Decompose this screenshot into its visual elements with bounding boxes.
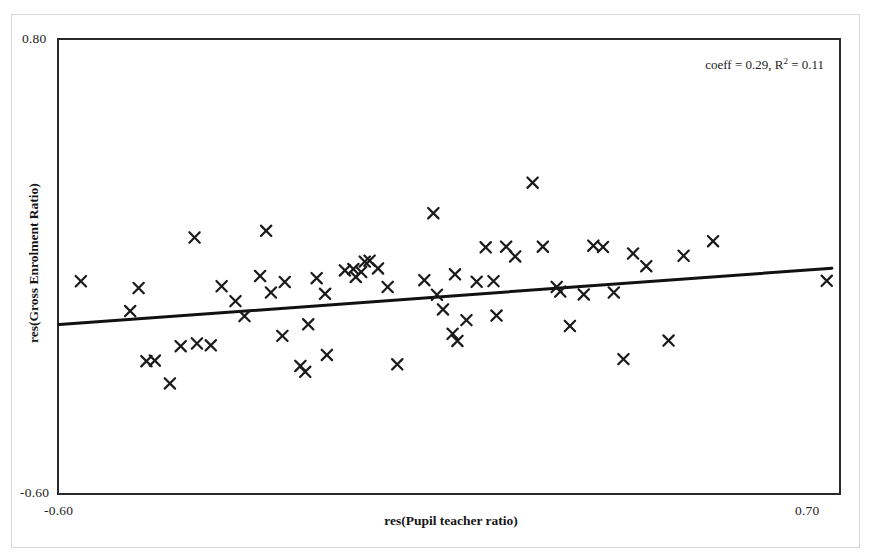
scatter-point <box>538 241 548 251</box>
scatter-point <box>461 315 471 325</box>
scatter-point <box>266 287 276 297</box>
scatter-point <box>261 226 271 236</box>
scatter-point <box>419 275 429 285</box>
scatter-point <box>510 251 520 261</box>
scatter-point <box>708 236 718 246</box>
scatter-point <box>598 242 608 252</box>
scatter-point <box>392 359 402 369</box>
scatter-point <box>480 242 490 252</box>
scatter-point <box>230 296 240 306</box>
scatter-point <box>565 321 575 331</box>
scatter-point <box>320 289 330 299</box>
scatter-point <box>76 276 86 286</box>
x-axis-title: res(Pupil teacher ratio) <box>0 513 872 529</box>
scatter-point <box>678 251 688 261</box>
regression-stats-annotation: coeff = 0.29, R2 = 0.11 <box>705 56 824 73</box>
annotation-rsq-text: = 0.11 <box>788 57 824 72</box>
scatter-point <box>280 277 290 287</box>
annotation-coeff-text: coeff = 0.29, R <box>705 57 783 72</box>
scatter-point <box>488 276 498 286</box>
scatter-markers <box>76 177 832 388</box>
plot-frame <box>58 39 840 494</box>
scatter-point <box>822 276 832 286</box>
scatter-point <box>579 289 589 299</box>
scatter-point <box>255 271 265 281</box>
plot-canvas <box>0 0 872 560</box>
scatter-point <box>428 208 438 218</box>
scatter-point <box>192 338 202 348</box>
scatter-point <box>303 319 313 329</box>
scatter-point <box>438 304 448 314</box>
scatter-point <box>618 354 628 364</box>
scatter-point <box>382 282 392 292</box>
scatter-point <box>133 283 143 293</box>
scatter-point <box>311 273 321 283</box>
scatter-point <box>641 261 651 271</box>
scatter-point <box>471 277 481 287</box>
scatter-point <box>125 306 135 316</box>
scatter-point <box>373 263 383 273</box>
scatter-point <box>150 355 160 365</box>
regression-trend-line <box>60 268 832 324</box>
scatter-point <box>663 335 673 345</box>
scatter-point <box>322 350 332 360</box>
scatter-point <box>176 341 186 351</box>
scatter-point <box>450 269 460 279</box>
scatter-point <box>206 340 216 350</box>
scatter-point <box>300 367 310 377</box>
scatter-point <box>216 281 226 291</box>
scatter-point <box>165 378 175 388</box>
scatter-point <box>277 331 287 341</box>
scatter-point <box>628 248 638 258</box>
scatter-point <box>609 287 619 297</box>
scatter-plot-figure: 0.80 -0.60 -0.60 0.70 res(Pupil teacher … <box>0 0 872 560</box>
scatter-point <box>491 310 501 320</box>
scatter-point <box>189 232 199 242</box>
y-axis-title: res(Gross Enrolment Ratio) <box>26 153 42 373</box>
scatter-point <box>527 177 537 187</box>
y-axis-tick-min: -0.60 <box>20 485 49 501</box>
y-axis-tick-max: 0.80 <box>22 31 46 47</box>
